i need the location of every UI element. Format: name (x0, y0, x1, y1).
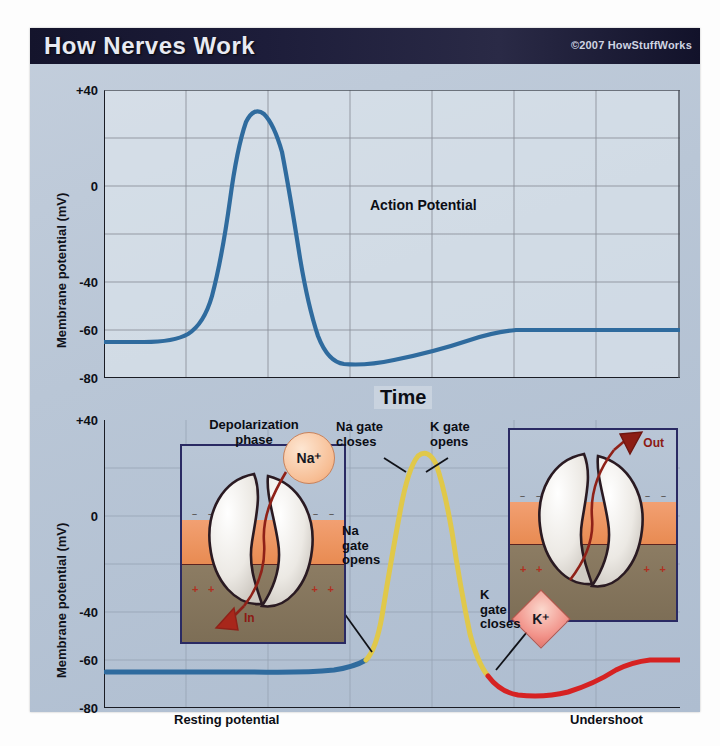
top-chart-ytick-2: 0 (52, 179, 98, 194)
label-depolarization-phase: Depolarization phase (174, 418, 334, 447)
copyright-credit: ©2007 HowStuffWorks (571, 39, 692, 51)
bottom-chart-ytick-5: -60 (52, 653, 98, 668)
bottom-chart-curve-resting (106, 660, 366, 672)
top-chart-annotation-action-potential: Action Potential (370, 198, 477, 214)
potassium-ion-label: K⁺ (532, 611, 549, 627)
label-k-gate-closes: K gate closes (480, 588, 520, 632)
figure-canvas: How Nerves Work ©2007 HowStuffWorks Memb… (30, 28, 700, 712)
label-k-gate-opens: K gate opens (430, 420, 470, 449)
ion-direction-label: Out (643, 436, 664, 450)
bottom-chart-curve-spike (366, 453, 488, 676)
top-chart-ytick-6: -80 (52, 371, 98, 386)
bottom-chart-ytick-6: -80 (52, 701, 98, 716)
top-chart-plot-area (104, 90, 680, 378)
label-undershoot: Undershoot (570, 712, 643, 727)
label-na-gate-closes: Na gate closes (336, 420, 383, 449)
potassium-channel-panel: – – – – + + + + (508, 428, 678, 622)
top-chart-ytick-5: -60 (52, 323, 98, 338)
ion-direction-label: In (244, 611, 255, 625)
illustration-root: How Nerves Work ©2007 HowStuffWorks Memb… (0, 0, 720, 746)
bottom-chart-ytick-4: -40 (52, 605, 98, 620)
bottom-chart-ytick-0: +40 (52, 413, 98, 428)
top-chart-ytick-0: +40 (52, 83, 98, 98)
label-na-gate-opens: Na gate opens (342, 524, 380, 568)
label-resting-potential: Resting potential (174, 712, 279, 727)
bottom-chart-curve-undershoot (488, 660, 680, 696)
header-bar: How Nerves Work ©2007 HowStuffWorks (30, 28, 700, 64)
top-chart-ytick-4: -40 (52, 275, 98, 290)
sodium-ion-label: Na⁺ (297, 450, 322, 466)
bottom-chart: Membrane potential (mV) +40 0 -40 -60 -8… (30, 396, 700, 712)
page-title: How Nerves Work (44, 32, 255, 60)
top-chart: Membrane potential (mV) +40 0 -40 -60 -8… (30, 68, 700, 398)
bottom-chart-ytick-2: 0 (52, 509, 98, 524)
potassium-gate-protein-icon (510, 430, 676, 620)
